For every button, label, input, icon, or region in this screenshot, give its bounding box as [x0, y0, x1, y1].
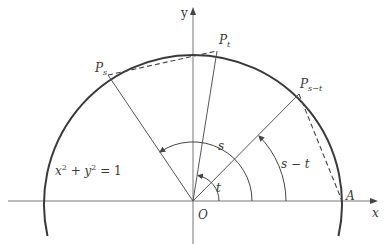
angle-s-label: s [218, 140, 224, 152]
radius-to-P-s [108, 75, 193, 201]
radius-to-P-s-minus-t [193, 94, 299, 201]
radius-to-P-t [193, 51, 217, 201]
point-P-s-label: Ps [95, 62, 107, 77]
point-A-label: A [346, 190, 355, 202]
angle-t-label: t [216, 182, 221, 194]
angle-arc-s [160, 142, 252, 201]
origin-label: O [198, 209, 208, 221]
diagram-canvas [0, 0, 386, 244]
diagram-stage: y x O A Pt Ps Ps−t t s s − t x2 + y2 = 1 [0, 0, 386, 244]
angle-s-minus-t-label: s − t [281, 158, 310, 170]
y-axis-arrow-icon [190, 7, 196, 15]
point-P-t-label: Pt [219, 34, 230, 49]
point-P-s-minus-t-label: Ps−t [300, 78, 322, 93]
y-axis-label: y [181, 7, 188, 19]
circle-equation: x2 + y2 = 1 [55, 164, 122, 177]
x-axis-label: x [372, 207, 379, 219]
y-axis [190, 7, 196, 244]
chord-P-s-minus-t-to-A [299, 94, 342, 201]
x-axis-arrow-icon [370, 198, 378, 204]
